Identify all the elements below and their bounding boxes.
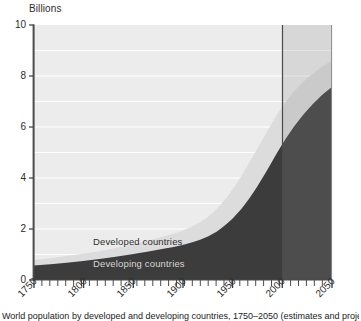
series-label-developing-countries: Developing countries — [93, 258, 185, 269]
projection-region-tint — [283, 25, 333, 280]
population-area-chart-figure: Billions — [0, 0, 361, 321]
plot-area-wrapper: 10 8 6 4 2 0 1750 1800 1850 1900 1950 20… — [0, 0, 361, 321]
y-tick-label-4: 4 — [2, 173, 26, 183]
chart-svg — [0, 0, 361, 321]
y-tick-label-8: 8 — [2, 71, 26, 81]
y-tick-label-10: 10 — [2, 20, 26, 30]
y-tick-label-6: 6 — [2, 122, 26, 132]
y-tick-label-2: 2 — [2, 224, 26, 234]
figure-caption: World population by developed and develo… — [2, 311, 359, 321]
series-label-developed-countries: Developed countries — [93, 236, 182, 247]
